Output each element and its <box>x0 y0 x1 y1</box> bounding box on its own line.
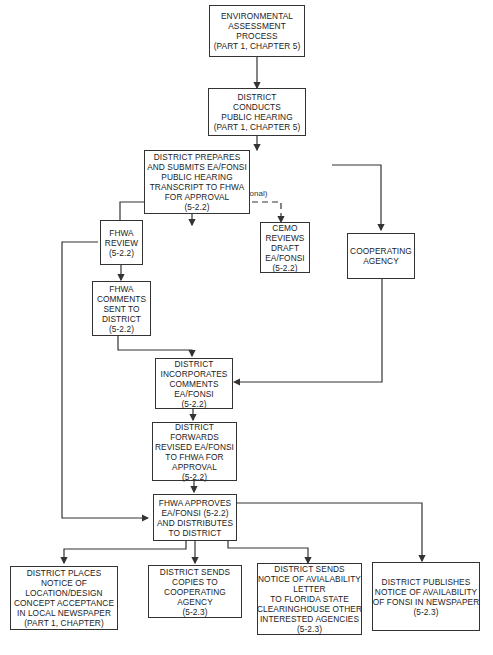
box-ea-process: ENVIRONMENTAL ASSESSMENT PROCESS (PART 1… <box>209 5 305 57</box>
box-district-prepares: DISTRICT PREPARES AND SUBMITS EA/FONSI P… <box>144 150 250 214</box>
box-public-hearing: DISTRICT CONDUCTS PUBLIC HEARING (PART 1… <box>208 88 306 136</box>
box-places-notice: DISTRICT PLACES NOTICE OF LOCATION/DESIG… <box>10 566 118 630</box>
box-incorporates-comments: DISTRICT INCORPORATES COMMENTS EA/FONSI … <box>155 358 233 409</box>
box-fhwa-comments: FHWA COMMENTS SENT TO DISTRICT (5-2.2) <box>92 281 151 336</box>
box-fhwa-review: FHWA REVIEW (5-2.2) <box>100 220 143 265</box>
box-publishes-notice: DISTRICT PUBLISHES NOTICE OF AVAILABILIT… <box>372 562 480 631</box>
box-forwards-revised: DISTRICT FORWARDS REVISED EA/FONSI TO FH… <box>152 422 237 481</box>
box-sends-copies: DISTRICT SENDS COPIES TO COOPERATING AGE… <box>148 565 242 618</box>
box-fhwa-approves: FHWA APPROVES EA/FONSI (5-2.2) AND DISTR… <box>153 494 237 541</box>
box-cemo-reviews: CEMO REVIEWS DRAFT EA/FONSI (5-2.2) <box>260 222 310 273</box>
box-sends-notice-letter: DISTRICT SENDS NOTICE OF AVIALABILITY LE… <box>257 563 362 635</box>
box-cooperating-agency: COOPERATING AGENCY <box>347 233 415 279</box>
